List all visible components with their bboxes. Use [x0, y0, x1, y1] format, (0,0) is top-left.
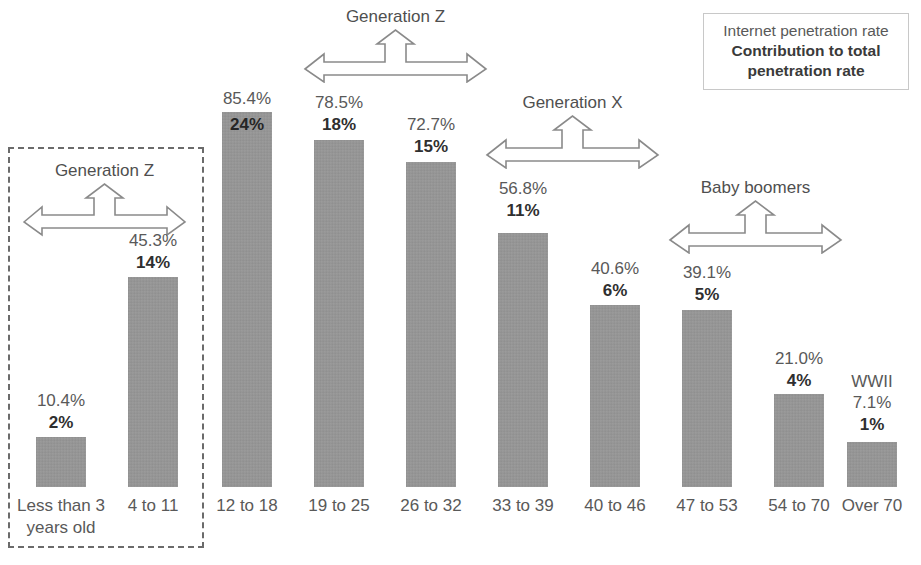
bar-0: [36, 437, 86, 487]
rate-label-6: 40.6%: [570, 258, 660, 279]
category-label-8: 54 to 70: [759, 495, 839, 517]
rate-label-7: 39.1%: [662, 262, 752, 283]
rate-label-1: 45.3%: [108, 230, 198, 251]
contribution-label-1: 14%: [108, 252, 198, 273]
bracket-label-generation-z-young: Generation Z: [22, 160, 187, 181]
chart-legend: Internet penetration rate Contribution t…: [703, 13, 909, 90]
chart-canvas: Internet penetration rate Contribution t…: [0, 0, 921, 565]
bar-9: [847, 442, 897, 487]
contribution-label-0: 2%: [16, 412, 106, 433]
bar-6: [590, 305, 640, 487]
contribution-label-6: 6%: [570, 280, 660, 301]
bracket-generation-x: Generation X: [485, 92, 660, 169]
rate-label-0: 10.4%: [16, 390, 106, 411]
bar-4: [406, 162, 456, 487]
contribution-label-5: 11%: [478, 200, 568, 221]
category-label-7: 47 to 53: [667, 495, 747, 517]
category-label-4: 26 to 32: [391, 495, 471, 517]
bracket-label-generation-x: Generation X: [485, 92, 660, 113]
rate-label-8: 21.0%: [754, 348, 844, 369]
bracket-generation-z-young: Generation Z: [22, 160, 187, 237]
three-way-arrow-icon: [485, 114, 660, 169]
category-label-9: Over 70: [832, 495, 912, 517]
bar-5: [498, 233, 548, 487]
rate-label-3: 78.5%: [294, 92, 384, 113]
bracket-generation-z-main: Generation Z: [303, 6, 488, 83]
category-label-1: 4 to 11: [113, 495, 193, 517]
rate-label-9: 7.1%: [832, 392, 912, 413]
legend-contribution-label-line2: penetration rate: [710, 61, 902, 81]
rate-label-5: 56.8%: [478, 178, 568, 199]
bracket-label-generation-z-main: Generation Z: [303, 6, 488, 27]
contribution-label-8: 4%: [754, 370, 844, 391]
three-way-arrow-icon: [22, 182, 187, 237]
contribution-label-9: 1%: [832, 414, 912, 435]
category-label-2: 12 to 18: [207, 495, 287, 517]
category-label-0: Less than 3 years old: [6, 495, 116, 539]
contribution-label-3: 18%: [294, 114, 384, 135]
contribution-label-2: 24%: [202, 114, 292, 135]
bracket-baby-boomers: Baby boomers: [668, 177, 843, 254]
bracket-label-baby-boomers: Baby boomers: [668, 177, 843, 198]
three-way-arrow-icon: [668, 199, 843, 254]
contribution-label-7: 5%: [662, 284, 752, 305]
rate-label-2: 85.4%: [202, 88, 292, 109]
contribution-label-4: 15%: [386, 136, 476, 157]
legend-rate-label: Internet penetration rate: [710, 21, 902, 41]
bar-8: [774, 394, 824, 487]
category-label-6: 40 to 46: [575, 495, 655, 517]
category-label-5: 33 to 39: [483, 495, 563, 517]
bar-1: [128, 277, 178, 487]
bar-2: [222, 112, 272, 487]
legend-contribution-label-line1: Contribution to total: [710, 41, 902, 61]
bar-7: [682, 310, 732, 487]
rate-label-4: 72.7%: [386, 114, 476, 135]
bracket-label-wwii: WWII: [832, 372, 912, 392]
bar-3: [314, 140, 364, 487]
category-label-3: 19 to 25: [299, 495, 379, 517]
three-way-arrow-icon: [303, 28, 488, 83]
